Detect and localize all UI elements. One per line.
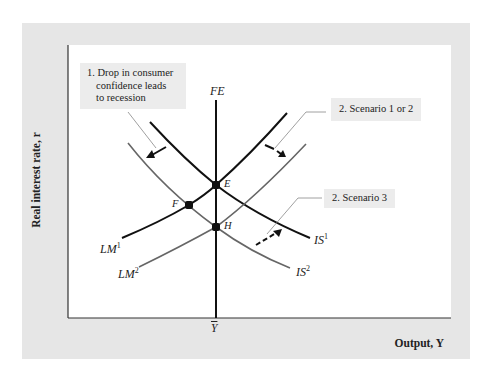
point-e-marker [212,181,220,189]
point-h-marker [212,223,220,231]
is-shift-up-dashed-arrow [256,233,276,245]
callout-consumer-confidence: 1. Drop in consumer confidence leads to … [80,63,186,109]
point-f-label: F [172,198,178,209]
x-axis-label: Output, Y [395,337,444,349]
point-f-marker [185,201,193,209]
point-h-label: H [224,220,232,231]
lm2-label: LM2 [118,266,139,282]
is-lm-fe-diagram [0,0,488,378]
lm-shift-right-arrow [265,145,274,149]
is2-label: IS2 [296,264,310,280]
fe-label: FE [210,84,225,99]
arrowhead-icon [273,229,282,237]
point-e-label: E [224,178,230,189]
callout-3-leader [267,198,322,234]
callout-scenario-3: 2. Scenario 3 [324,189,395,208]
lm-shift-right-arrow-2 [277,151,281,154]
lm2-curve [139,144,306,267]
y-axis-label: Real interest rate, r [30,132,42,228]
lm1-label: LM1 [100,241,121,257]
callout-1-leader [128,112,156,148]
is2-curve [128,143,290,268]
is-shift-left-arrow [152,147,166,155]
is1-label: IS1 [314,232,328,248]
callout-scenario-1-or-2: 2. Scenario 1 or 2 [331,98,421,121]
full-employment-output-tick: Y [211,322,217,334]
